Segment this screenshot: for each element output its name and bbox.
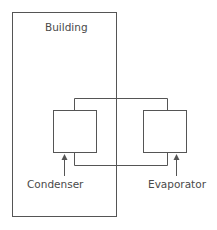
top-pipe [75,99,168,111]
evaporator-label: Evaporator [148,179,206,190]
condenser-box [54,111,97,153]
evaporator-arrow-icon [174,154,180,176]
evaporator-box [144,111,187,153]
building-label: Building [45,22,88,33]
condenser-arrow-icon [62,154,68,176]
bottom-pipe [75,152,168,166]
heat-pump-diagram [0,0,217,230]
condenser-label: Condenser [27,179,83,190]
